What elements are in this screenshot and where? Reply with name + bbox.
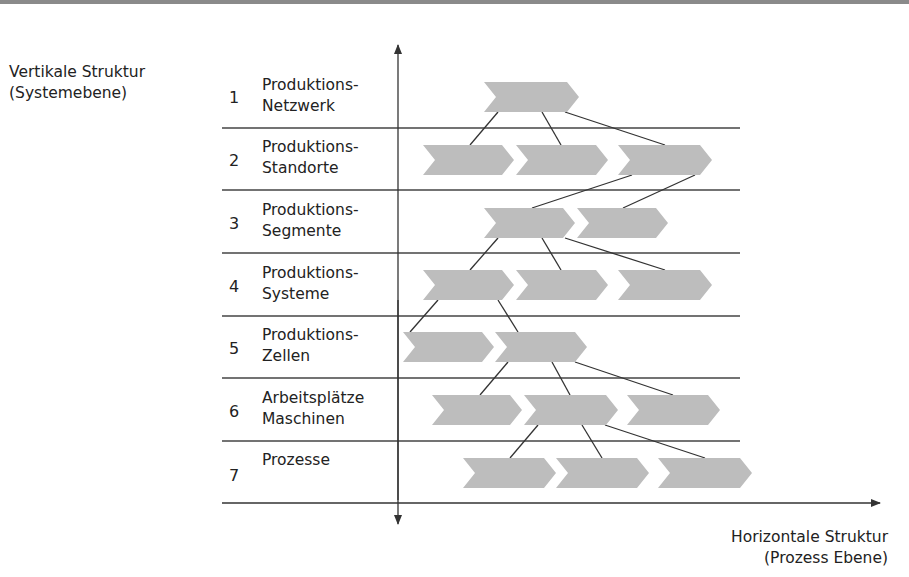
chevron-r4-2 <box>516 270 608 300</box>
chevron-r4-1 <box>423 270 514 300</box>
process-chevrons <box>403 82 752 488</box>
chevron-r7-1 <box>463 458 556 488</box>
chevron-r4-3 <box>618 270 712 300</box>
chevron-r5-2 <box>495 332 587 362</box>
chevron-r7-2 <box>556 458 649 488</box>
chevron-r6-3 <box>627 395 720 425</box>
chevron-r3-1 <box>484 208 575 238</box>
chevron-r3-2 <box>577 208 668 238</box>
chevron-r5-1 <box>403 332 494 362</box>
chevron-r6-1 <box>432 395 522 425</box>
chevron-r6-2 <box>524 395 618 425</box>
chevron-r2-3 <box>618 145 712 175</box>
chevron-r1-1 <box>484 82 579 112</box>
hierarchy-diagram <box>0 0 909 577</box>
chevron-r7-3 <box>658 458 752 488</box>
chevron-r2-1 <box>423 145 514 175</box>
chevron-r2-2 <box>516 145 608 175</box>
